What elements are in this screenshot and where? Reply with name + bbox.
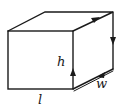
arrow-down-icon xyxy=(110,37,116,45)
label-length: l xyxy=(38,92,42,107)
cuboid-diagram: h l w xyxy=(0,0,126,111)
label-width: w xyxy=(96,76,107,91)
top-face xyxy=(8,12,113,31)
arrow-up-icon xyxy=(70,68,76,76)
label-height: h xyxy=(57,54,65,69)
right-bottom-edge-double xyxy=(74,71,113,91)
